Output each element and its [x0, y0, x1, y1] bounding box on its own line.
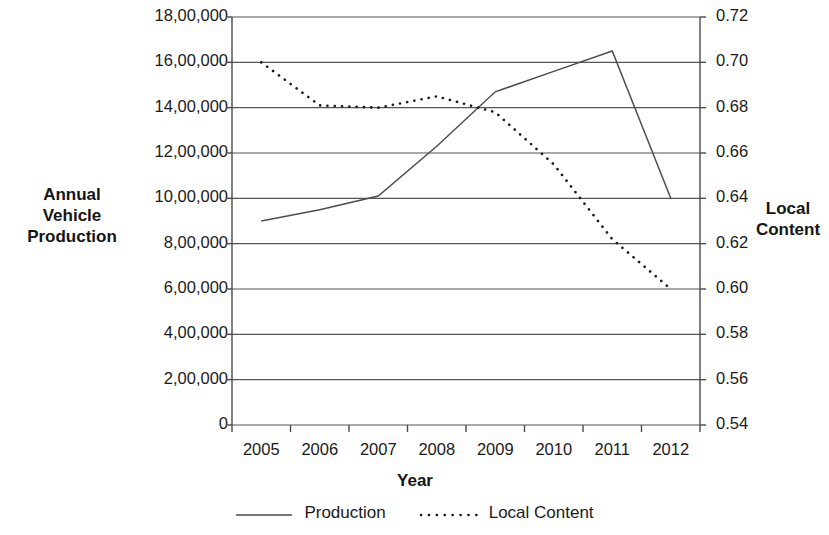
legend-entry[interactable]: Production — [235, 503, 385, 523]
axis-lines — [232, 17, 700, 425]
axis-tickmarks — [226, 17, 706, 432]
legend-entry[interactable]: Local Content — [420, 503, 594, 523]
data-series-group — [261, 51, 671, 289]
series-line-local-content — [261, 62, 671, 289]
legend-label: Production — [304, 503, 385, 523]
series-line-production — [261, 51, 671, 221]
chart-container: Annual Vehicle Production Local Content … — [0, 0, 829, 535]
dotted-line-icon — [420, 507, 478, 519]
solid-line-icon — [235, 507, 293, 519]
gridlines — [232, 17, 700, 425]
legend-label: Local Content — [489, 503, 594, 523]
plot-area — [0, 0, 829, 535]
chart-legend: ProductionLocal Content — [0, 503, 829, 523]
